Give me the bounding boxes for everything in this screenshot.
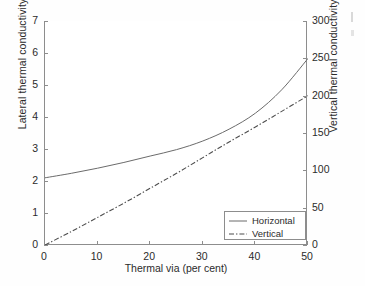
x-tick: [307, 241, 308, 245]
y-left-tick: [44, 245, 48, 246]
y-left-tick-label: 0: [8, 238, 38, 250]
x-tick-label: 30: [185, 250, 219, 262]
y-left-tick: [44, 21, 48, 22]
y-right-tick: [303, 170, 307, 171]
x-tick: [97, 241, 98, 245]
y-right-tick-label: 250: [312, 51, 346, 63]
y-left-tick: [44, 117, 48, 118]
y-left-tick-label: 7: [8, 14, 38, 26]
x-tick: [149, 241, 150, 245]
x-tick-label: 20: [132, 250, 166, 262]
y-right-tick: [303, 208, 307, 209]
y-left-tick-label: 2: [8, 174, 38, 186]
x-tick: [202, 241, 203, 245]
y-left-tick-label: 6: [8, 46, 38, 58]
y-right-tick-label: 0: [312, 238, 346, 250]
y-right-tick-label: 150: [312, 126, 346, 138]
y-right-tick: [303, 96, 307, 97]
legend-swatch-solid-icon: [228, 217, 248, 225]
y-right-tick: [303, 133, 307, 134]
y-left-tick: [44, 53, 48, 54]
scan-artifact-upper: [351, 12, 353, 22]
y-left-tick-label: 5: [8, 78, 38, 90]
y-right-tick-label: 50: [312, 201, 346, 213]
y-right-tick-label: 300: [312, 14, 346, 26]
legend-label-vertical: Vertical: [252, 229, 283, 239]
legend-swatch-dashdot-icon: [228, 230, 248, 238]
scan-artifact-lower: [351, 30, 354, 36]
x-tick-label: 50: [290, 250, 324, 262]
y-left-tick: [44, 149, 48, 150]
y-left-tick-label: 4: [8, 110, 38, 122]
x-tick: [254, 241, 255, 245]
legend-label-horizontal: Horizontal: [252, 216, 295, 226]
x-tick-label: 40: [237, 250, 271, 262]
y-right-tick: [303, 245, 307, 246]
y-left-tick: [44, 85, 48, 86]
x-tick: [44, 241, 45, 245]
x-tick-label: 10: [80, 250, 114, 262]
y-left-tick-label: 1: [8, 206, 38, 218]
y-right-tick: [303, 21, 307, 22]
y-left-tick: [44, 213, 48, 214]
legend-box[interactable]: Horizontal Vertical: [224, 211, 306, 240]
x-tick-label: 0: [27, 250, 61, 262]
legend-item-vertical[interactable]: Vertical: [228, 228, 305, 240]
legend-item-horizontal[interactable]: Horizontal: [228, 215, 305, 227]
figure-canvas: Lateral thermal conductivity Vertical th…: [0, 0, 365, 286]
y-left-tick-label: 3: [8, 142, 38, 154]
y-right-tick: [303, 58, 307, 59]
y-right-tick-label: 200: [312, 89, 346, 101]
y-left-tick: [44, 181, 48, 182]
y-right-tick-label: 100: [312, 163, 346, 175]
series-line-horizontal: [45, 58, 308, 177]
x-axis-label: Thermal via (per cent): [44, 262, 308, 274]
